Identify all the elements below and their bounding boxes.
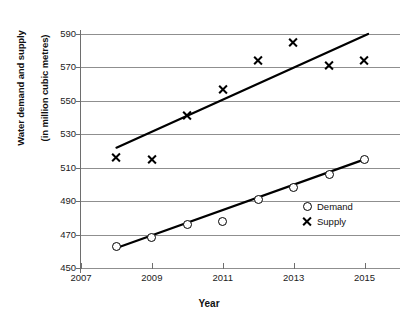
cross-icon [300, 216, 314, 228]
legend-item-supply: Supply [300, 214, 353, 229]
demand-point-2012 [254, 195, 263, 204]
water-demand-supply-chart: Water demand and supply (in million cubi… [0, 0, 418, 327]
demand-point-2015 [360, 155, 369, 164]
supply-point-2011 [217, 84, 228, 95]
open-circle-icon [300, 201, 314, 213]
supply-point-2012 [253, 55, 264, 66]
demand-point-2010 [183, 220, 192, 229]
chart-legend: Demand Supply [300, 199, 353, 229]
supply-point-2008 [111, 152, 122, 163]
legend-label-supply: Supply [314, 216, 346, 227]
supply-trendline [116, 34, 368, 148]
demand-point-2011 [218, 217, 227, 226]
legend-item-demand: Demand [300, 199, 353, 214]
x-axis-title: Year [0, 298, 418, 309]
demand-point-2014 [325, 170, 334, 179]
legend-label-demand: Demand [314, 201, 353, 212]
trendlines-layer [0, 0, 418, 327]
demand-point-2008 [112, 242, 121, 251]
supply-point-2010 [182, 110, 193, 121]
supply-point-2014 [324, 60, 335, 71]
supply-point-2013 [288, 37, 299, 48]
supply-point-2009 [146, 154, 157, 165]
supply-point-2015 [359, 55, 370, 66]
